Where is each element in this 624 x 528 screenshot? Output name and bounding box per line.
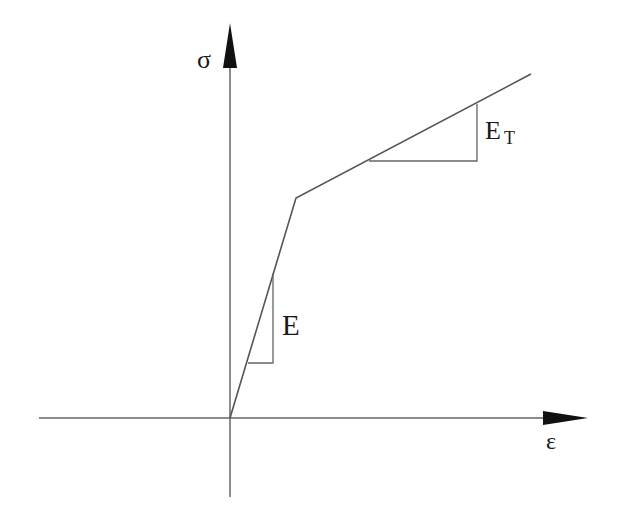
- tangent-modulus-main: E: [485, 116, 501, 145]
- strain-axis-arrowhead-icon: [543, 411, 588, 425]
- stress-axis-arrowhead-icon: [223, 23, 237, 68]
- tangent-slope-triangle: [369, 104, 477, 161]
- stress-strain-diagram: [0, 0, 624, 528]
- strain-axis-label: ε: [546, 429, 556, 453]
- tangent-modulus-label: ET: [485, 118, 515, 144]
- tangent-modulus-subscript: T: [504, 128, 515, 148]
- elastic-modulus-label: E: [282, 311, 300, 340]
- stress-axis-label: σ: [197, 47, 211, 73]
